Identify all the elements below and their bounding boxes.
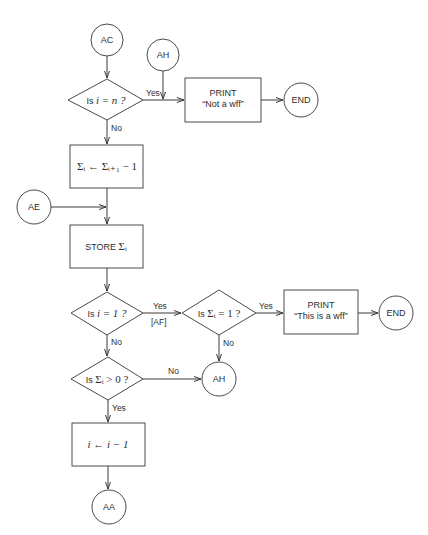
decision-sigma-equals-1: Is Σᵢ = 1 ? <box>182 290 256 335</box>
connector-end-1-label: END <box>291 95 311 105</box>
decision-4-prefix: Is <box>86 375 96 385</box>
connector-end-1: END <box>284 83 318 117</box>
decision-2-math: i = 1 ? <box>97 307 127 319</box>
decision-3-no-label: No <box>223 338 234 348</box>
decision-2-prefix: Is <box>87 309 97 319</box>
process-store-sigma: STORE Σᵢ <box>70 225 143 268</box>
decision-3-prefix: Is <box>198 309 208 319</box>
connector-aa: AA <box>92 490 126 524</box>
decision-i-equals-1: Is i = 1 ? <box>71 292 143 335</box>
connector-ac: AC <box>91 24 123 56</box>
decision-1-prefix: Is <box>86 96 96 106</box>
process-decrement-text: i ← i − 1 <box>87 438 128 450</box>
flowchart: AC AH END AE END AH AA Is i = n ? Yes No… <box>0 0 428 535</box>
connector-ae-label: AE <box>28 202 40 212</box>
connector-end-2: END <box>379 296 413 330</box>
process-decrement-i: i ← i − 1 <box>72 423 145 466</box>
decision-3-yes-label: Yes <box>259 301 273 311</box>
print-2-line2: “This is a wff” <box>294 311 347 321</box>
svg-text:Is i = n ?: Is i = n ? <box>86 94 126 106</box>
process-sigma-assign: Σᵢ ← Σᵢ₊₁ − 1 <box>70 145 143 188</box>
decision-i-equals-n: Is i = n ? <box>68 79 143 120</box>
print-1-line1: PRINT <box>210 88 238 98</box>
connector-ah-top-label: AH <box>157 50 170 60</box>
decision-2-af-label: [AF] <box>151 317 167 327</box>
connector-ac-label: AC <box>101 35 114 45</box>
decision-4-math: Σᵢ > 0 ? <box>95 373 128 385</box>
decision-1-yes-label: Yes <box>146 88 160 98</box>
process-store-label: STORE <box>85 242 116 252</box>
svg-text:Is Σᵢ = 1 ?: Is Σᵢ = 1 ? <box>198 307 241 319</box>
decision-1-no-label: No <box>111 123 122 133</box>
connector-end-2-label: END <box>386 308 406 318</box>
decision-2-yes-label: Yes <box>153 301 167 311</box>
connector-aa-label: AA <box>103 502 115 512</box>
connector-ah-bottom: AH <box>202 362 236 396</box>
svg-text:STORE Σᵢ: STORE Σᵢ <box>85 240 127 252</box>
connector-ah-top: AH <box>147 39 179 71</box>
svg-text:Is i = 1 ?: Is i = 1 ? <box>87 307 127 319</box>
process-store-math: Σᵢ <box>119 240 127 252</box>
process-print-is-wff: PRINT “This is a wff” <box>284 290 358 334</box>
process-sigma-text: Σᵢ ← Σᵢ₊₁ − 1 <box>77 160 137 172</box>
decision-2-no-label: No <box>111 337 122 347</box>
decision-1-math: i = n ? <box>96 94 126 106</box>
connector-ah-bottom-label: AH <box>213 374 226 384</box>
decision-sigma-greater-0: Is Σᵢ > 0 ? <box>71 357 143 400</box>
svg-text:Is Σᵢ > 0 ?: Is Σᵢ > 0 ? <box>86 373 129 385</box>
connector-ae: AE <box>17 190 51 224</box>
decision-4-yes-label: Yes <box>112 403 126 413</box>
print-1-line2: “Not a wff” <box>202 99 243 109</box>
process-print-not-wff: PRINT “Not a wff” <box>185 78 261 122</box>
decision-4-no-label: No <box>168 366 179 376</box>
print-2-line1: PRINT <box>308 300 336 310</box>
decision-3-math: Σᵢ = 1 ? <box>207 307 240 319</box>
